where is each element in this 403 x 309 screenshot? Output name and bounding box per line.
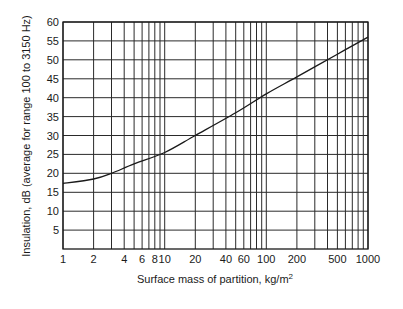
x-tick-label: 2 (91, 253, 97, 265)
y-tick-label: 35 (47, 111, 59, 123)
x-tick-label: 60 (238, 253, 250, 265)
y-tick-label: 40 (47, 92, 59, 104)
x-tick-label: 10 (159, 253, 171, 265)
y-tick-label: 55 (47, 35, 59, 47)
x-tick-label: 6 (139, 253, 145, 265)
grid-lines (63, 22, 368, 249)
y-tick-label: 60 (47, 16, 59, 28)
chart: 12468102040601002005001000 5101520253035… (0, 0, 403, 309)
x-axis-ticks: 12468102040601002005001000 (60, 253, 380, 265)
y-tick-label: 10 (47, 205, 59, 217)
x-axis-label: Surface mass of partition, kg/m2 (137, 272, 294, 285)
x-tick-label: 500 (328, 253, 346, 265)
y-tick-label: 25 (47, 148, 59, 160)
y-tick-label: 50 (47, 54, 59, 66)
x-tick-label: 8 (152, 253, 158, 265)
y-tick-label: 30 (47, 130, 59, 142)
x-tick-label: 40 (220, 253, 232, 265)
y-axis-label: Insulation, dB (average for range 100 to… (20, 15, 32, 257)
data-line (63, 37, 368, 183)
x-tick-label: 1000 (356, 253, 380, 265)
y-axis-ticks: 51015202530354045505560 (47, 16, 59, 236)
y-tick-label: 20 (47, 167, 59, 179)
x-tick-label: 4 (121, 253, 127, 265)
y-tick-label: 15 (47, 186, 59, 198)
x-tick-label: 100 (257, 253, 275, 265)
x-tick-label: 200 (288, 253, 306, 265)
y-tick-label: 5 (53, 224, 59, 236)
x-tick-label: 1 (60, 253, 66, 265)
x-tick-label: 20 (189, 253, 201, 265)
y-tick-label: 45 (47, 73, 59, 85)
